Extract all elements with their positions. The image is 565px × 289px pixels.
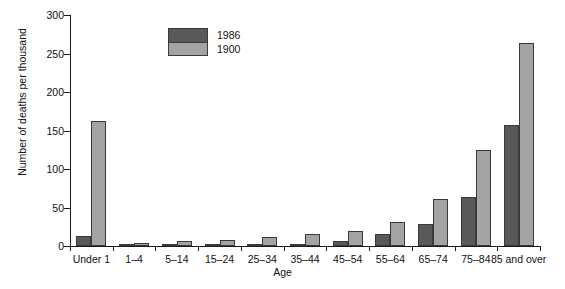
bar-1986 bbox=[290, 244, 305, 246]
plot-area bbox=[70, 15, 540, 246]
bar-1986 bbox=[162, 244, 177, 246]
legend-swatch-icon-1900 bbox=[168, 42, 208, 56]
x-tick-mark bbox=[369, 246, 370, 251]
x-tick-mark bbox=[241, 246, 242, 251]
x-tick-mark bbox=[326, 246, 327, 251]
x-tick-mark bbox=[412, 246, 413, 251]
x-tick-mark bbox=[455, 246, 456, 251]
bar-group bbox=[198, 240, 241, 246]
bar-1986 bbox=[333, 241, 348, 246]
bar-1986 bbox=[119, 244, 134, 246]
y-tick-label: 300 bbox=[22, 10, 64, 20]
y-tick-label: 250 bbox=[22, 49, 64, 59]
x-axis-title: Age bbox=[0, 266, 565, 278]
bar-chart: 050100150200250300 Number of deaths per … bbox=[0, 0, 565, 289]
bar-1900 bbox=[476, 150, 491, 246]
bar-group bbox=[113, 243, 156, 246]
bar-1986 bbox=[418, 224, 433, 246]
bar-1986 bbox=[247, 244, 262, 246]
x-tick-mark bbox=[497, 246, 498, 251]
legend-item-1986: 1986 bbox=[168, 28, 240, 42]
legend: 1986 1900 bbox=[168, 28, 240, 56]
bar-1986 bbox=[504, 125, 519, 246]
legend-label-1900: 1900 bbox=[217, 43, 240, 55]
x-tick-mark bbox=[284, 246, 285, 251]
bar-group bbox=[155, 241, 198, 246]
bar-group bbox=[369, 222, 412, 246]
bar-1900 bbox=[134, 243, 149, 246]
x-tick-mark bbox=[113, 246, 114, 251]
bar-1986 bbox=[375, 234, 390, 246]
legend-label-1986: 1986 bbox=[217, 29, 240, 41]
y-tick-label: 200 bbox=[22, 87, 64, 97]
bar-1900 bbox=[390, 222, 405, 246]
x-tick-mark bbox=[198, 246, 199, 251]
bar-group bbox=[70, 121, 113, 247]
y-tick-label: 50 bbox=[22, 203, 64, 213]
bar-group bbox=[497, 43, 540, 246]
bar-group bbox=[241, 237, 284, 246]
y-axis-title: Number of deaths per thousand bbox=[16, 2, 28, 202]
bar-1900 bbox=[177, 241, 192, 246]
legend-item-1900: 1900 bbox=[168, 42, 240, 56]
bar-1900 bbox=[433, 199, 448, 246]
bar-1900 bbox=[262, 237, 277, 246]
bar-1900 bbox=[519, 43, 534, 246]
y-tick-label: 100 bbox=[22, 164, 64, 174]
bar-group bbox=[326, 231, 369, 246]
bar-group bbox=[455, 150, 498, 246]
bar-group bbox=[284, 234, 327, 246]
y-tick-label: 150 bbox=[22, 126, 64, 136]
bar-1900 bbox=[305, 234, 320, 246]
x-axis-line bbox=[70, 246, 540, 247]
bar-1986 bbox=[205, 244, 220, 246]
bar-1900 bbox=[348, 231, 363, 246]
x-tick-mark bbox=[540, 246, 541, 251]
y-tick-label: 0 bbox=[22, 241, 64, 251]
bar-group bbox=[412, 199, 455, 246]
x-tick-mark bbox=[70, 246, 71, 251]
bar-1986 bbox=[461, 197, 476, 246]
x-tick-label: 85 and over bbox=[487, 253, 550, 265]
bar-1900 bbox=[220, 240, 235, 246]
legend-swatch-icon-1986 bbox=[168, 28, 208, 42]
bar-1986 bbox=[76, 236, 91, 246]
x-tick-mark bbox=[155, 246, 156, 251]
bar-1900 bbox=[91, 121, 106, 247]
